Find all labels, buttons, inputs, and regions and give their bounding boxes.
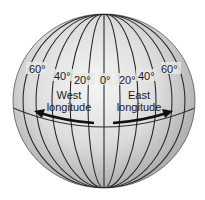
label-60-east: 60° xyxy=(161,64,178,75)
label-40-east: 40° xyxy=(138,71,155,82)
west-longitude-label: West longitude xyxy=(44,89,94,113)
west-longitude-line2: longitude xyxy=(44,101,94,113)
label-40-west: 40° xyxy=(54,71,71,82)
east-longitude-line2: longitude xyxy=(114,101,164,113)
globe-illustration xyxy=(0,0,205,200)
label-20-east: 20° xyxy=(119,75,136,86)
label-0-prime-meridian: 0° xyxy=(100,75,111,86)
label-60-west: 60° xyxy=(29,64,46,75)
east-longitude-line1: East xyxy=(114,89,164,101)
east-longitude-label: East longitude xyxy=(114,89,164,113)
label-20-west: 20° xyxy=(74,75,91,86)
west-longitude-line1: West xyxy=(44,89,94,101)
